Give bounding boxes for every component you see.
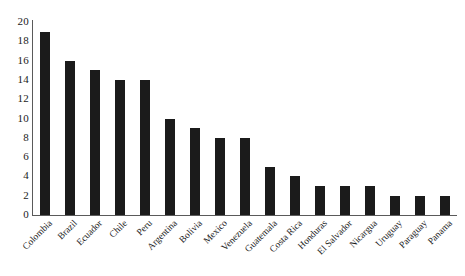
bar: [140, 80, 150, 215]
x-axis-category-label: Chile: [108, 218, 130, 240]
plot-area: [33, 22, 457, 215]
bar-column: [357, 22, 382, 215]
bar: [240, 138, 250, 215]
bar-column: [282, 22, 307, 215]
y-axis-tick-label: 10: [3, 113, 29, 124]
bar-column: [432, 22, 457, 215]
bar-column: [133, 22, 158, 215]
bar: [190, 128, 200, 215]
y-axis-tick-labels: 20181614121086420: [0, 0, 29, 276]
bar: [415, 196, 425, 215]
bar: [290, 176, 300, 215]
bar: [215, 138, 225, 215]
bar-column: [407, 22, 432, 215]
bar: [265, 167, 275, 215]
bar: [40, 32, 50, 215]
bar: [115, 80, 125, 215]
y-axis-tick-label: 8: [3, 132, 29, 143]
bar-column: [33, 22, 58, 215]
y-axis-tick-label: 0: [3, 209, 29, 220]
bar: [65, 61, 75, 215]
bar-column: [58, 22, 83, 215]
bar: [390, 196, 400, 215]
x-axis-category-label: Ecuador: [75, 218, 104, 247]
x-axis-category-label: Panama: [425, 218, 453, 246]
x-axis-category-label: Peru: [135, 218, 154, 237]
bar-column: [233, 22, 258, 215]
bar-column: [83, 22, 108, 215]
y-axis-tick-label: 12: [3, 93, 29, 104]
bar-column: [307, 22, 332, 215]
y-axis-tick-label: 6: [3, 151, 29, 162]
x-axis-category-labels: ColombiaBrazilEcuadorChilePeruArgentinaB…: [33, 216, 457, 276]
bar: [315, 186, 325, 215]
x-axis-category-label: Bolivia: [177, 218, 204, 245]
bar-column: [158, 22, 183, 215]
bar-column: [257, 22, 282, 215]
bar-column: [382, 22, 407, 215]
y-axis-tick-label: 14: [3, 74, 29, 85]
y-axis-tick-label: 16: [3, 55, 29, 66]
y-axis-tick-label: 4: [3, 170, 29, 181]
bar-column: [183, 22, 208, 215]
bar: [440, 196, 450, 215]
bar: [90, 70, 100, 215]
bar-column: [108, 22, 133, 215]
bar: [165, 119, 175, 216]
bar: [340, 186, 350, 215]
bar-column: [332, 22, 357, 215]
y-axis-tick-label: 18: [3, 35, 29, 46]
bar: [365, 186, 375, 215]
bar-column: [208, 22, 233, 215]
y-axis-tick-label: 20: [3, 16, 29, 27]
bar-chart-figure: 20181614121086420 ColombiaBrazilEcuadorC…: [0, 0, 465, 276]
y-axis-tick-label: 2: [3, 190, 29, 201]
